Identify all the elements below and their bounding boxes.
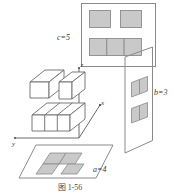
- top-right-cube-front-face: [59, 82, 72, 99]
- front-view-cell-bottom-2: [107, 39, 124, 56]
- side-view-cell-upper-2: [140, 77, 148, 95]
- front-view-cell-bottom-1: [90, 39, 107, 56]
- top-view-label: a=4: [93, 165, 106, 174]
- top-view-cell-4: [61, 164, 84, 174]
- side-view-frame: [125, 47, 153, 153]
- geometry-figure: c=5 b=3 z y x: [0, 0, 174, 195]
- side-view-cell-upper-1: [132, 80, 140, 98]
- y-axis-label: y: [11, 140, 16, 148]
- figure-container: c=5 b=3 z y x: [0, 0, 174, 195]
- front-view-label: c=5: [57, 33, 70, 42]
- front-view-cell-top-1: [90, 11, 111, 28]
- y-axis-tip: [14, 137, 16, 139]
- side-view-cell-lower-1: [132, 106, 140, 124]
- front-view-panel: [82, 4, 156, 67]
- unit-cube-assembly: [30, 70, 85, 131]
- side-view-label: b=3: [154, 88, 167, 97]
- x-axis-label: x: [100, 99, 105, 107]
- figure-caption: 图 1-56: [58, 183, 83, 192]
- front-view-cell-top-2: [121, 11, 142, 28]
- side-view-panel: [125, 47, 153, 153]
- top-view-cell-3: [36, 164, 59, 174]
- side-view-cell-lower-2: [140, 103, 148, 121]
- top-left-cube-front-face: [30, 82, 49, 98]
- bottom-row-front-face: [32, 115, 70, 131]
- front-view-cell-bottom-3: [124, 39, 141, 56]
- z-axis-label: z: [80, 61, 84, 69]
